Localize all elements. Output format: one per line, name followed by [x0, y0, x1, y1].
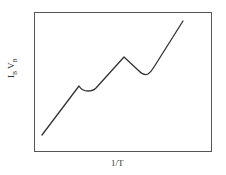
curve-plot: [0, 0, 226, 175]
x-axis-label: 1/T: [111, 158, 124, 168]
y-axis-label: IB VB: [6, 58, 18, 78]
data-curve: [42, 21, 183, 135]
